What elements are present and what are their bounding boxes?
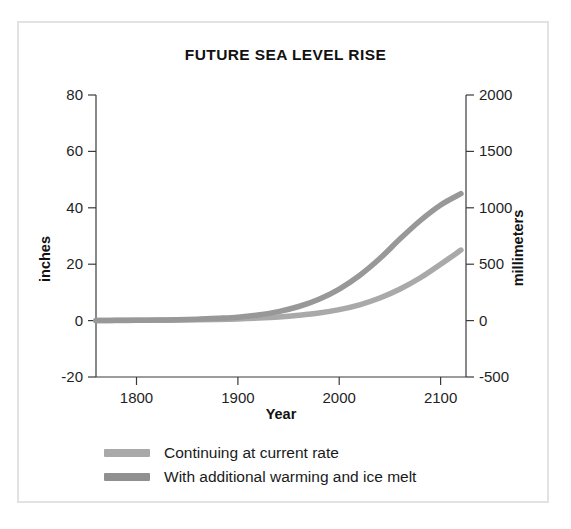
legend-item: With additional warming and ice melt <box>104 465 504 489</box>
right-tick-label: 0 <box>479 312 487 329</box>
legend-label: With additional warming and ice melt <box>164 469 416 485</box>
x-axis-title: Year <box>266 406 297 422</box>
y2-axis-title: millimeters <box>510 210 526 287</box>
left-axis-tick-labels: 80 60 40 20 0 -20 <box>61 86 83 385</box>
right-axis-ticks <box>466 95 474 377</box>
left-tick-label: 60 <box>66 142 83 159</box>
x-axis-tick-labels: 1800 1900 2000 2100 <box>120 389 457 406</box>
left-axis-ticks <box>88 95 96 377</box>
right-tick-label: 1500 <box>479 142 512 159</box>
x-tick-label: 1900 <box>221 389 254 406</box>
chart-legend: Continuing at current rate With addition… <box>104 441 504 489</box>
x-tick-label: 2100 <box>424 389 457 406</box>
left-tick-label: 40 <box>66 199 83 216</box>
x-tick-label: 2000 <box>323 389 356 406</box>
left-tick-label: 0 <box>75 312 83 329</box>
right-tick-label: 2000 <box>479 86 512 103</box>
legend-swatch-icon <box>104 473 150 481</box>
left-tick-label: -20 <box>61 368 83 385</box>
legend-item: Continuing at current rate <box>104 441 504 465</box>
right-tick-label: -500 <box>479 368 509 385</box>
x-tick-label: 1800 <box>120 389 153 406</box>
legend-label: Continuing at current rate <box>164 445 339 461</box>
y-axis-title: inches <box>37 236 53 282</box>
figure-container: FUTURE SEA LEVEL RISE 80 60 40 20 0 -20 <box>0 0 571 529</box>
left-tick-label: 20 <box>66 255 83 272</box>
left-tick-label: 80 <box>66 86 83 103</box>
right-tick-label: 500 <box>479 255 504 272</box>
x-axis-ticks <box>137 377 441 385</box>
legend-swatch-icon <box>104 449 150 457</box>
right-tick-label: 1000 <box>479 199 512 216</box>
right-axis-tick-labels: 2000 1500 1000 500 0 -500 <box>479 86 512 385</box>
series-line-with-additional-warming <box>96 194 461 321</box>
